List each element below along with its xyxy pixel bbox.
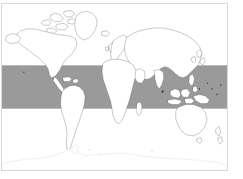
island-dot — [220, 84, 221, 86]
island-dot — [216, 93, 217, 95]
island-dot — [199, 88, 200, 90]
island-dot — [152, 151, 153, 152]
island-dot — [211, 88, 212, 90]
island-dot — [207, 82, 208, 84]
island-dot — [23, 71, 24, 73]
land-sri-lanka — [162, 90, 164, 93]
map-frame — [1, 3, 228, 171]
island-dot — [89, 149, 90, 151]
world-map-canvas[interactable] — [2, 4, 227, 170]
map-figure — [0, 0, 243, 179]
